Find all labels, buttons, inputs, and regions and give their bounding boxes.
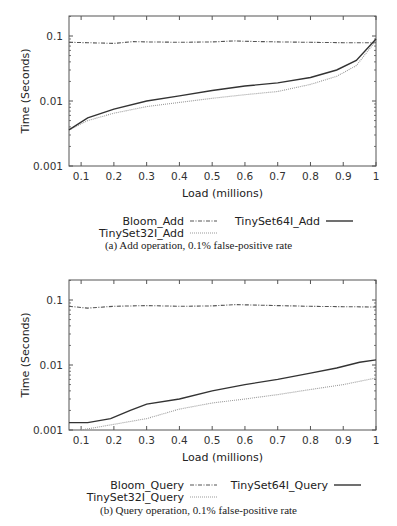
- caption-query: (b) Query operation, 0.1% false-positive…: [0, 504, 397, 516]
- x-tick-label: 0.4: [171, 170, 188, 182]
- y-tick-label: 0.1: [46, 30, 63, 42]
- chart-query-plot: 0.10.20.30.40.50.60.70.80.910.0010.010.1…: [0, 264, 397, 509]
- caption-add: (a) Add operation, 0.1% false-positive r…: [0, 239, 397, 251]
- series-tinyset64i-query: [69, 360, 376, 423]
- series-tinyset32i-add: [69, 41, 376, 130]
- x-tick-label: 0.1: [73, 170, 90, 182]
- x-tick-label: 0.5: [204, 170, 221, 182]
- x-tick-label: 0.6: [237, 170, 254, 182]
- x-axis-title: Load (millions): [182, 451, 263, 464]
- query-plot-frame: [69, 280, 376, 430]
- series-tinyset64i-add: [69, 39, 376, 130]
- x-tick-label: 0.5: [204, 434, 221, 446]
- x-tick-label: 0.6: [237, 434, 254, 446]
- series-bloom-query: [69, 305, 376, 309]
- chart-add-plot: 0.10.20.30.40.50.60.70.80.910.0010.010.1…: [0, 0, 397, 245]
- x-tick-label: 1: [373, 170, 380, 182]
- x-axis-title: Load (millions): [182, 187, 263, 200]
- y-tick-label: 0.01: [40, 95, 63, 107]
- x-tick-label: 0.2: [106, 434, 123, 446]
- y-tick-label: 0.001: [33, 424, 63, 436]
- series-tinyset32i-query: [81, 378, 376, 430]
- y-tick-label: 0.01: [40, 359, 63, 371]
- x-tick-label: 0.3: [138, 434, 155, 446]
- x-tick-label: 1: [373, 434, 380, 446]
- x-tick-label: 0.2: [106, 170, 123, 182]
- series-bloom-add: [69, 41, 376, 44]
- legend-label-tinyset64i: TinySet64I_Add: [234, 215, 320, 228]
- chart-panel-query: 0.10.20.30.40.50.60.70.80.910.0010.010.1…: [0, 264, 397, 526]
- x-tick-label: 0.8: [302, 434, 319, 446]
- y-axis-title: Time (Seconds): [19, 312, 32, 398]
- x-tick-label: 0.9: [335, 434, 352, 446]
- add-plot-frame: [69, 16, 376, 166]
- chart-panel-add: 0.10.20.30.40.50.60.70.80.910.0010.010.1…: [0, 0, 397, 263]
- legend-label-tinyset64i: TinySet64I_Query: [230, 479, 329, 492]
- legend: Bloom_QueryTinySet32I_QueryTinySet64I_Qu…: [86, 479, 361, 504]
- x-tick-label: 0.7: [269, 434, 286, 446]
- x-tick-label: 0.8: [302, 170, 319, 182]
- x-tick-label: 0.4: [171, 434, 188, 446]
- y-tick-label: 0.1: [46, 294, 63, 306]
- x-tick-label: 0.9: [335, 170, 352, 182]
- legend: Bloom_AddTinySet32I_AddTinySet64I_Add: [98, 215, 353, 240]
- y-axis-title: Time (Seconds): [19, 48, 32, 134]
- x-tick-label: 0.1: [73, 434, 90, 446]
- legend-label-tinyset32i: TinySet32I_Query: [86, 491, 185, 504]
- x-tick-label: 0.7: [269, 170, 286, 182]
- x-tick-label: 0.3: [138, 170, 155, 182]
- y-tick-label: 0.001: [33, 160, 63, 172]
